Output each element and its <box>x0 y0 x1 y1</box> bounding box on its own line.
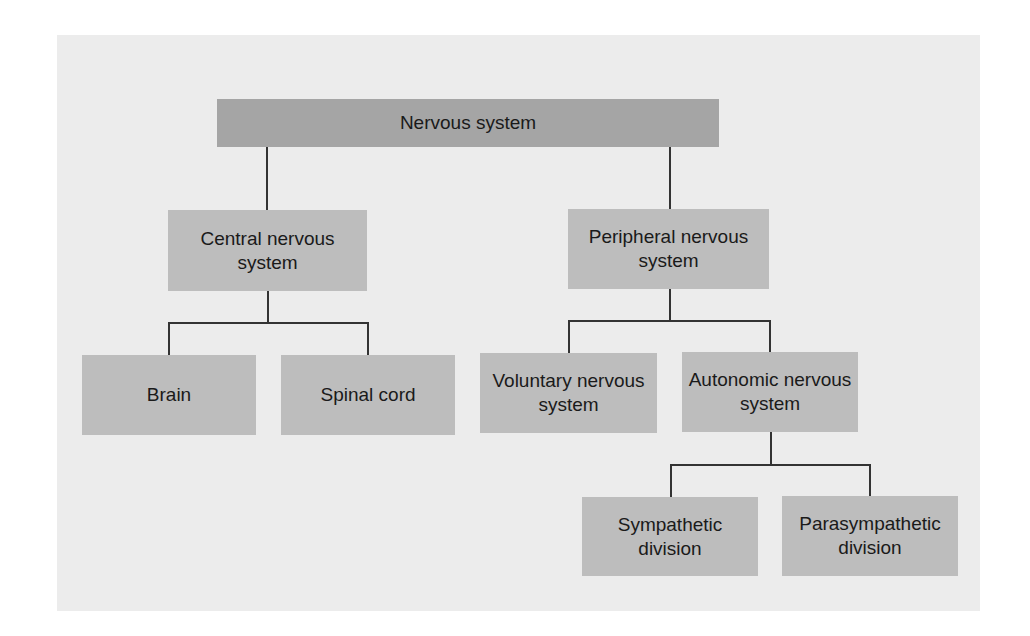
connector-central-bar <box>168 322 368 324</box>
node-central-nervous-system: Central nervous system <box>168 210 367 291</box>
connector-to-voluntary <box>568 320 570 353</box>
node-label: Brain <box>147 383 191 407</box>
node-nervous-system: Nervous system <box>217 99 719 147</box>
connector-central-stem <box>267 291 269 323</box>
connector-to-parasympathetic <box>869 464 871 496</box>
node-label: Parasympathetic division <box>795 512 945 560</box>
node-label: Sympathetic division <box>605 513 735 561</box>
node-sympathetic-division: Sympathetic division <box>582 497 758 576</box>
node-voluntary-nervous-system: Voluntary nervous system <box>480 353 657 433</box>
node-spinal-cord: Spinal cord <box>281 355 455 435</box>
connector-peripheral-stem <box>669 289 671 321</box>
connector-to-sympathetic <box>670 464 672 497</box>
node-label: Peripheral nervous system <box>584 225 754 273</box>
node-label: Central nervous system <box>193 227 343 275</box>
node-label: Autonomic nervous system <box>688 368 852 416</box>
node-brain: Brain <box>82 355 256 435</box>
connector-root-to-peripheral <box>669 147 671 209</box>
node-peripheral-nervous-system: Peripheral nervous system <box>568 209 769 289</box>
connector-root-to-central <box>266 147 268 210</box>
connector-peripheral-bar <box>568 320 770 322</box>
connector-autonomic-stem <box>770 432 772 465</box>
connector-autonomic-bar <box>670 464 871 466</box>
connector-to-spinal-cord <box>367 322 369 355</box>
node-autonomic-nervous-system: Autonomic nervous system <box>682 352 858 432</box>
node-parasympathetic-division: Parasympathetic division <box>782 496 958 576</box>
node-label: Nervous system <box>400 111 536 135</box>
connector-to-brain <box>168 322 170 355</box>
connector-to-autonomic <box>769 320 771 352</box>
node-label: Voluntary nervous system <box>486 369 651 417</box>
node-label: Spinal cord <box>320 383 415 407</box>
